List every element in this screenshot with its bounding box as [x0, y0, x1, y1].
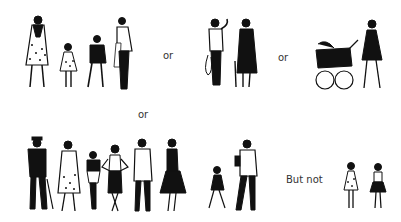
walking-girl-figure	[209, 167, 225, 209]
pram-figure	[316, 40, 358, 89]
man-in-jacket-figure	[134, 139, 152, 211]
little-girl-figure	[60, 44, 77, 88]
father-and-child	[203, 140, 273, 215]
woman-with-cane-figure	[235, 19, 257, 87]
woman-hands-on-hips-figure	[102, 145, 128, 211]
or-label-1: or	[163, 51, 173, 61]
mother-with-pram	[312, 18, 387, 93]
or-label-2: or	[278, 53, 288, 63]
children-alone	[342, 160, 392, 215]
short-man-figure	[87, 152, 100, 210]
woman-pushing-pram-figure	[362, 20, 382, 88]
elderly-couple	[203, 15, 263, 95]
man-in-hat-with-cane-figure	[28, 137, 53, 209]
or-label-3: or	[138, 110, 148, 120]
girl-in-skirt-figure	[370, 164, 386, 209]
man-with-jacket-figure	[114, 18, 132, 90]
man-with-briefcase-figure	[235, 140, 257, 210]
but-not-label: But not	[286, 175, 323, 185]
boy-figure	[88, 36, 106, 88]
adult-crowd	[20, 137, 190, 215]
woman-in-black-dress-figure	[160, 139, 186, 211]
girl-in-dotted-dress-figure	[344, 163, 358, 209]
man-with-bag-figure	[206, 19, 228, 85]
woman-in-coat-figure	[26, 16, 48, 87]
bearded-woman-in-dress-figure	[58, 141, 80, 211]
family-group	[20, 15, 140, 95]
